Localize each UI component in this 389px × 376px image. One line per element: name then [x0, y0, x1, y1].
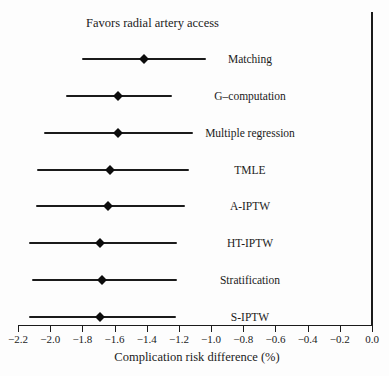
method-label: Stratification — [220, 274, 280, 286]
x-axis-tick-label: −1.0 — [201, 333, 221, 345]
x-axis-tick-label: −1.2 — [169, 333, 189, 345]
method-label: HT-IPTW — [227, 237, 273, 249]
method-label: Matching — [228, 53, 272, 65]
point-estimate-diamond — [113, 128, 123, 138]
zero-reference-line — [371, 12, 373, 326]
x-axis-tick — [340, 325, 341, 332]
x-axis-tick — [275, 325, 276, 332]
x-axis-tick-label: −0.2 — [330, 333, 350, 345]
forest-plot: Favors radial artery access MatchingG–co… — [0, 0, 389, 376]
point-estimate-diamond — [103, 201, 113, 211]
method-label: G–computation — [214, 90, 286, 102]
point-estimate-diamond — [95, 238, 105, 248]
point-estimate-diamond — [95, 312, 105, 322]
x-axis-tick-label: −1.8 — [72, 333, 92, 345]
method-label: TMLE — [234, 164, 265, 176]
x-axis-tick-label: 0.0 — [365, 333, 379, 345]
x-axis-tick-label: −1.6 — [105, 333, 125, 345]
favors-direction-label: Favors radial artery access — [86, 16, 219, 31]
x-axis-tick-label: −0.6 — [265, 333, 285, 345]
x-axis-tick — [179, 325, 180, 332]
x-axis-tick — [147, 325, 148, 332]
point-estimate-diamond — [139, 54, 149, 64]
x-axis-tick — [243, 325, 244, 332]
x-axis-tick-label: −1.4 — [137, 333, 157, 345]
method-label: Multiple regression — [205, 127, 295, 139]
x-axis-line — [18, 325, 372, 326]
point-estimate-diamond — [97, 275, 107, 285]
point-estimate-diamond — [113, 91, 123, 101]
x-axis-tick — [372, 325, 373, 332]
method-label: S-IPTW — [231, 311, 269, 323]
x-axis-tick-label: −2.2 — [8, 333, 28, 345]
x-axis-tick-label: −0.4 — [298, 333, 318, 345]
x-axis-tick-label: −0.8 — [233, 333, 253, 345]
x-axis-tick — [50, 325, 51, 332]
x-axis-tick — [82, 325, 83, 332]
x-axis-tick — [115, 325, 116, 332]
x-axis-tick-label: −2.0 — [40, 333, 60, 345]
x-axis-title: Complication risk difference (%) — [114, 350, 279, 365]
x-axis-tick — [18, 325, 19, 332]
x-axis-tick — [211, 325, 212, 332]
method-label: A-IPTW — [230, 200, 270, 212]
x-axis-tick — [308, 325, 309, 332]
point-estimate-diamond — [105, 165, 115, 175]
